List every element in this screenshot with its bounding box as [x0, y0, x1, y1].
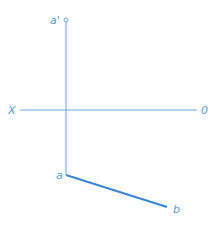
- projection-diagram: a' X 0 a b: [0, 0, 219, 235]
- diagram-svg: a' X 0 a b: [0, 0, 219, 235]
- label-b: b: [173, 203, 180, 216]
- label-a: a: [56, 169, 63, 182]
- point-a-prime: [64, 18, 68, 22]
- segment-ab: [66, 175, 167, 207]
- label-x: X: [7, 104, 16, 117]
- label-a-prime: a': [50, 14, 60, 27]
- label-o: 0: [201, 104, 208, 117]
